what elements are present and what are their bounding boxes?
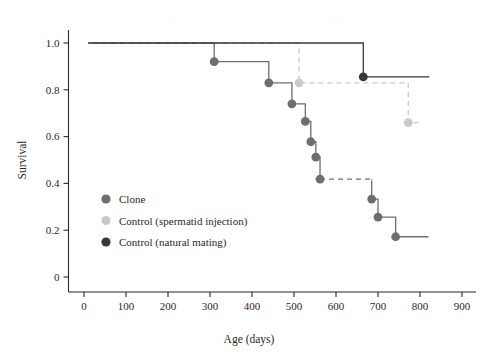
data-point-marker xyxy=(295,78,304,87)
bleed-text-left: ••• xyxy=(168,14,177,24)
data-point-marker xyxy=(306,137,315,146)
legend-marker-control-spermatid-injection xyxy=(101,216,110,225)
series-line-control-natural-mating xyxy=(88,43,429,77)
x-tick-label: 0 xyxy=(81,300,87,312)
chart-legend: CloneControl (spermatid injection)Contro… xyxy=(101,193,247,249)
x-tick-label: 800 xyxy=(412,300,429,312)
legend-label-control-spermatid-injection: Control (spermatid injection) xyxy=(119,215,248,228)
x-tick-label: 900 xyxy=(454,300,471,312)
data-point-marker xyxy=(288,99,297,108)
legend-label-clone: Clone xyxy=(119,193,145,205)
series-group xyxy=(88,43,429,237)
x-axis-tick-labels: 0100200300400500600700800900 xyxy=(81,300,471,312)
series-line-clone xyxy=(88,43,428,237)
x-tick-label: 500 xyxy=(286,300,303,312)
data-point-marker xyxy=(404,118,413,127)
data-point-marker xyxy=(367,195,376,204)
data-point-marker xyxy=(316,175,325,184)
data-point-marker xyxy=(359,73,368,82)
x-tick-label: 200 xyxy=(160,300,177,312)
data-point-marker xyxy=(391,232,400,241)
data-point-marker xyxy=(301,117,310,126)
chart-canvas: ••• ••• 00.20.40.60.81.0 010020030040050… xyxy=(0,0,498,360)
y-tick-label: 1.0 xyxy=(46,37,60,49)
y-axis-ticks xyxy=(64,43,69,277)
legend-marker-control-natural-mating xyxy=(101,237,110,246)
y-axis-title: Survival xyxy=(16,141,28,180)
x-axis-ticks xyxy=(84,292,462,297)
x-tick-label: 600 xyxy=(328,300,345,312)
y-tick-label: 0.4 xyxy=(46,177,60,189)
axes-group: 00.20.40.60.81.0 01002003004005006007008… xyxy=(46,30,476,312)
x-axis-title: Age (days) xyxy=(224,333,275,346)
legend-marker-clone xyxy=(101,194,110,203)
survival-chart: ••• ••• 00.20.40.60.81.0 010020030040050… xyxy=(0,0,498,360)
legend-label-control-natural-mating: Control (natural mating) xyxy=(119,236,227,249)
x-tick-label: 400 xyxy=(244,300,261,312)
y-axis-tick-labels: 00.20.40.60.81.0 xyxy=(46,37,60,283)
x-tick-label: 700 xyxy=(370,300,387,312)
data-point-marker xyxy=(374,213,383,222)
y-tick-label: 0.8 xyxy=(46,84,60,96)
y-tick-label: 0.6 xyxy=(46,130,60,142)
bleed-text-right: ••• xyxy=(332,14,341,24)
data-point-marker xyxy=(264,78,273,87)
data-point-marker xyxy=(311,153,320,162)
data-point-marker xyxy=(210,57,219,66)
series-line-control-spermatid-injection xyxy=(88,43,422,123)
y-tick-label: 0.2 xyxy=(46,224,60,236)
page-bleed-artifacts: ••• ••• xyxy=(168,14,341,24)
y-tick-label: 0 xyxy=(54,271,60,283)
x-tick-label: 100 xyxy=(118,300,135,312)
x-tick-label: 300 xyxy=(202,300,219,312)
